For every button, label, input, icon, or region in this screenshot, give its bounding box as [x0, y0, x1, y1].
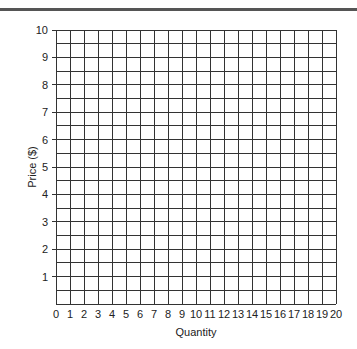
- x-tick-label: 3: [95, 308, 101, 320]
- y-axis-ticks: 12345678910: [36, 24, 56, 283]
- x-tick-label: 18: [302, 308, 314, 320]
- y-tick-label: 3: [42, 216, 48, 228]
- x-tick-label: 1: [67, 308, 73, 320]
- x-axis-ticks: 01234567891011121314151617181920: [53, 308, 342, 320]
- x-tick-label: 19: [316, 308, 328, 320]
- y-tick-label: 1: [42, 271, 48, 283]
- x-tick-label: 5: [123, 308, 129, 320]
- x-tick-label: 20: [330, 308, 342, 320]
- grid: [56, 30, 336, 304]
- y-tick-label: 8: [42, 79, 48, 91]
- x-tick-label: 0: [53, 308, 59, 320]
- x-tick-label: 11: [204, 308, 215, 320]
- x-tick-label: 2: [81, 308, 87, 320]
- y-tick-label: 7: [42, 106, 48, 118]
- x-tick-label: 10: [190, 308, 202, 320]
- x-tick-label: 13: [232, 308, 244, 320]
- x-axis-title: Quantity: [176, 326, 217, 338]
- x-tick-label: 8: [165, 308, 171, 320]
- y-tick-label: 4: [42, 188, 48, 200]
- y-tick-label: 2: [42, 243, 48, 255]
- x-tick-label: 17: [288, 308, 300, 320]
- y-tick-label: 6: [42, 134, 48, 146]
- y-tick-label: 9: [42, 51, 48, 63]
- x-tick-label: 14: [246, 308, 258, 320]
- x-tick-label: 6: [137, 308, 143, 320]
- x-tick-label: 16: [274, 308, 286, 320]
- y-axis-title: Price ($): [26, 146, 38, 188]
- x-tick-label: 4: [109, 308, 115, 320]
- x-tick-label: 12: [218, 308, 230, 320]
- x-tick-label: 9: [179, 308, 185, 320]
- y-tick-label: 5: [42, 161, 48, 173]
- y-tick-label: 10: [36, 24, 48, 36]
- x-tick-label: 15: [260, 308, 272, 320]
- blank-grid-chart: 12345678910 0123456789101112131415161718…: [0, 0, 357, 349]
- x-tick-label: 7: [151, 308, 157, 320]
